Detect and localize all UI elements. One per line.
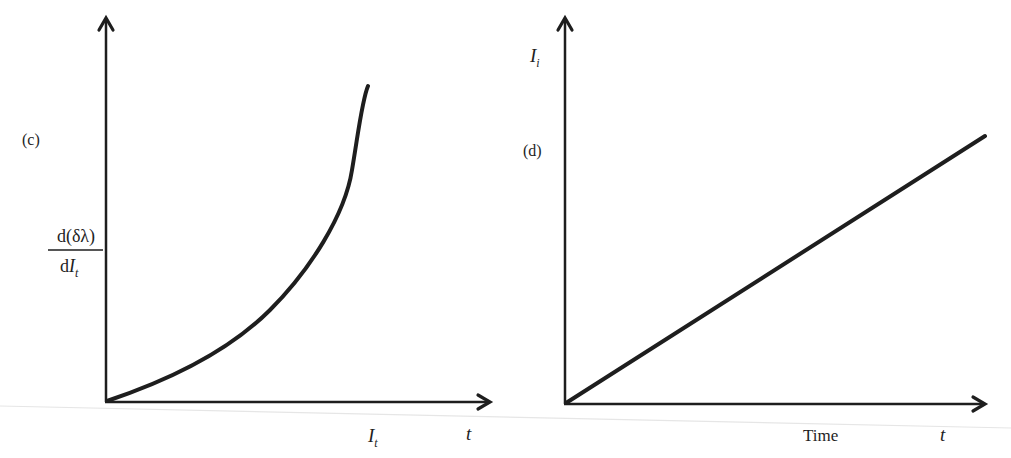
panel-c-y-label-denominator: dIt xyxy=(60,256,79,280)
panel-c-y-denominator-sub: t xyxy=(75,266,79,280)
panel-d-y-label: Ii xyxy=(529,45,540,70)
panel-c-y-denominator-prefix: d xyxy=(60,256,69,276)
panel-c-x-label: It xyxy=(367,425,378,450)
scan-artifact-line xyxy=(0,406,1011,428)
panel-c-x-label-sub: t xyxy=(374,436,378,450)
svg-text:dIt: dIt xyxy=(60,256,79,280)
panel-d-x-label: Time xyxy=(803,426,838,445)
panel-c-y-label-numerator: d(δλ) xyxy=(57,226,95,247)
panel-c-x-label-end: t xyxy=(466,423,472,444)
panel-d: Ii (d) Time t xyxy=(523,18,985,445)
panel-c-label: (c) xyxy=(22,131,40,149)
panel-d-y-label-sub: i xyxy=(536,56,539,70)
panel-d-line xyxy=(566,136,985,403)
panel-c-curve xyxy=(107,86,368,401)
panel-d-label: (d) xyxy=(523,142,542,160)
figure-canvas: (c) d(δλ) dIt It t Ii (d) Time xyxy=(0,0,1011,458)
panel-d-x-label-end: t xyxy=(940,424,946,445)
panel-c: (c) d(δλ) dIt It t xyxy=(22,18,490,450)
